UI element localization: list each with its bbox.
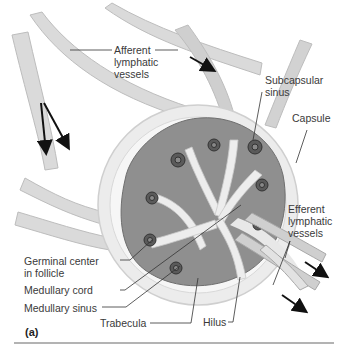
hilus-label: Hilus [203,316,226,328]
lymph-node-diagram: Afferent lymphatic vessels Subcapsular s… [0,0,346,347]
trabecula-label: Trabecula [100,317,146,329]
medullary-cord-label: Medullary cord [24,284,93,296]
panel-label: (a) [25,326,38,338]
afferent-label: Afferent lymphatic vessels [114,44,158,80]
medullary-sinus-label: Medullary sinus [24,302,97,314]
germinal-center-label: Germinal center in follicle [24,255,99,279]
subcapsular-sinus-label: Subcapsular sinus [265,74,323,98]
efferent-label: Efferent lymphatic vessels [288,203,332,239]
capsule-label: Capsule [292,112,331,124]
